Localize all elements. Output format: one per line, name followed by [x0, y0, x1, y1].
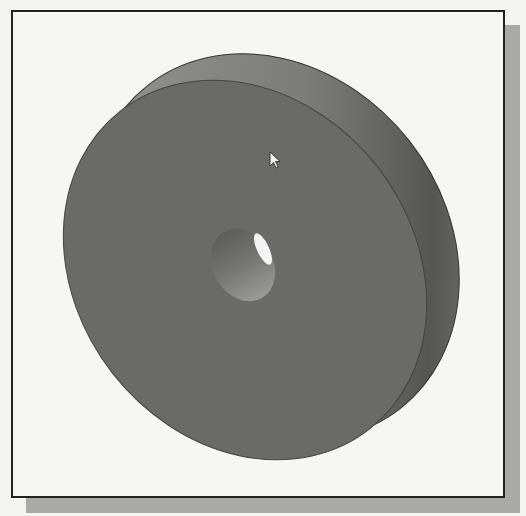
disc-model[interactable] — [13, 12, 503, 496]
viewport-frame — [11, 10, 505, 498]
